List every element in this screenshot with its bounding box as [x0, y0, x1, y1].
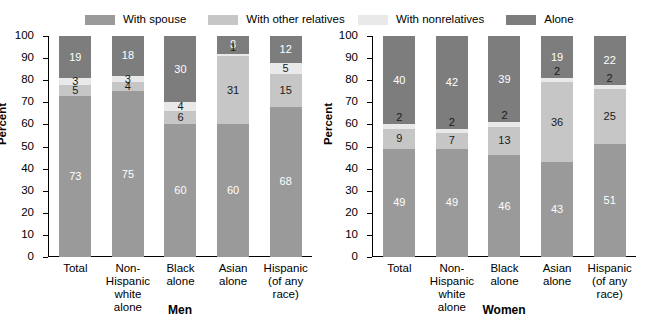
y-tick-label-80: 80 — [21, 74, 34, 86]
segment-with-other-relatives: 31 — [217, 56, 249, 125]
x-category-line: Hispanic — [586, 262, 634, 275]
y-tick-70: 70 — [43, 102, 48, 103]
segment-value: 36 — [551, 117, 563, 128]
y-axis-label-men: Percent — [0, 103, 8, 145]
segment-with-other-relatives: 25 — [594, 89, 626, 144]
bar-men-non-hispanic-white-alone[interactable]: 18 3 4 75 — [112, 36, 144, 257]
segment-with-other-relatives: 13 — [488, 127, 520, 156]
legend-item-with-spouse: With spouse — [85, 14, 186, 26]
segment-with-other-relatives: 9 — [383, 129, 415, 149]
bar-men-hispanic-of-any-race[interactable]: 12 5 15 68 — [270, 36, 302, 257]
y-tick-label-90: 90 — [21, 52, 34, 64]
plot-area-men: 100 90 80 70 60 50 40 30 20 10 0 19 3 5 … — [48, 36, 312, 257]
segment-value: 4 — [125, 81, 131, 92]
bar-women-non-hispanic-white-alone[interactable]: 42 2 7 49 — [436, 36, 468, 257]
x-category-line: (of any race) — [262, 275, 310, 301]
legend-swatch-alone — [506, 15, 536, 25]
segment-with-other-relatives: 4 — [112, 82, 144, 91]
segment-with-other-relatives: 7 — [436, 133, 468, 148]
y-tick-label-60: 60 — [345, 119, 358, 131]
bar-men-total[interactable]: 19 3 5 73 — [59, 36, 91, 257]
segment-value: 6 — [177, 112, 183, 123]
y-tick-label-30: 30 — [21, 185, 34, 197]
bar-women-total[interactable]: 40 2 9 49 — [383, 36, 415, 257]
segment-value: 19 — [551, 52, 563, 63]
segment-value: 46 — [498, 201, 510, 212]
segment-with-spouse: 46 — [488, 155, 520, 257]
y-tick-20: 20 — [367, 213, 372, 214]
y-tick-label-20: 20 — [345, 207, 358, 219]
x-category-line: Black — [480, 262, 528, 275]
y-tick-50: 50 — [367, 147, 372, 148]
segment-alone: 18 — [112, 36, 144, 76]
y-tick-0: 0 — [43, 257, 48, 258]
segment-value: 2 — [396, 112, 402, 123]
segment-value: 60 — [227, 185, 239, 196]
y-tick-10: 10 — [43, 235, 48, 236]
segment-value: 40 — [393, 75, 405, 86]
x-category-line: alone — [480, 275, 528, 288]
y-tick-label-100: 100 — [15, 30, 34, 42]
segment-value: 7 — [449, 135, 455, 146]
y-tick-label-90: 90 — [345, 52, 358, 64]
segment-value: 22 — [604, 55, 616, 66]
y-tick-80: 80 — [367, 80, 372, 81]
segment-value: 2 — [554, 66, 560, 77]
bar-women-asian-alone[interactable]: 19 2 36 43 — [541, 36, 573, 257]
segment-with-spouse: 60 — [217, 124, 249, 257]
segment-with-other-relatives: 15 — [270, 74, 302, 107]
x-category-line: alone — [156, 275, 204, 288]
bar-men-black-alone[interactable]: 30 4 6 60 — [164, 36, 196, 257]
x-category-line: Total — [375, 262, 423, 275]
segment-value: 5 — [72, 85, 78, 96]
legend-item-with-other-relatives: With other relatives — [208, 14, 344, 26]
legend-swatch-with-nonrelatives — [358, 15, 388, 25]
segment-with-spouse: 49 — [436, 149, 468, 257]
y-tick-40: 40 — [367, 169, 372, 170]
panel-title-men: Men — [48, 303, 312, 317]
segment-value: 75 — [122, 169, 134, 180]
y-tick-90: 90 — [367, 58, 372, 59]
bar-women-hispanic-of-any-race[interactable]: 22 2 25 51 — [594, 36, 626, 257]
bar-men-asian-alone[interactable]: 8 1 31 60 — [217, 36, 249, 257]
x-category-line: Asian — [533, 262, 581, 275]
segment-with-spouse: 60 — [164, 124, 196, 257]
legend-men: With spouse With other relatives — [85, 12, 367, 28]
y-tick-label-30: 30 — [345, 185, 358, 197]
x-category-line: alone — [209, 275, 257, 288]
panel-title-women: Women — [372, 303, 636, 317]
stacked-bar-chart-figure: With spouse With other relatives Percent… — [0, 0, 653, 329]
segment-alone: 19 — [59, 36, 91, 78]
segment-value: 15 — [280, 85, 292, 96]
x-category-line: Hispanic — [262, 262, 310, 275]
segment-value: 1 — [230, 42, 236, 53]
segment-value: 42 — [446, 77, 458, 88]
segment-value: 18 — [122, 50, 134, 61]
y-tick-80: 80 — [43, 80, 48, 81]
y-tick-30: 30 — [43, 191, 48, 192]
segment-with-spouse: 43 — [541, 162, 573, 257]
segment-value: 31 — [227, 85, 239, 96]
segment-value: 49 — [446, 197, 458, 208]
y-tick-60: 60 — [43, 124, 48, 125]
segment-alone: 12 — [270, 36, 302, 63]
segment-value: 60 — [174, 185, 186, 196]
segment-value: 13 — [498, 135, 510, 146]
segment-with-spouse: 68 — [270, 107, 302, 257]
plot-area-women: 100 90 80 70 60 50 40 30 20 10 0 40 2 9 … — [372, 36, 636, 257]
y-tick-30: 30 — [367, 191, 372, 192]
y-tick-label-20: 20 — [21, 207, 34, 219]
bar-women-black-alone[interactable]: 39 2 13 46 — [488, 36, 520, 257]
segment-value: 30 — [174, 64, 186, 75]
y-tick-60: 60 — [367, 124, 372, 125]
legend-label-with-spouse: With spouse — [123, 14, 186, 26]
segment-value: 39 — [498, 74, 510, 85]
segment-value: 12 — [280, 44, 292, 55]
segment-with-spouse: 49 — [383, 149, 415, 257]
legend-item-with-nonrelatives: With nonrelatives — [358, 14, 484, 26]
segment-value: 19 — [69, 52, 81, 63]
x-category-line: Asian — [209, 262, 257, 275]
panel-women: With nonrelatives Alone Percent 100 90 8… — [330, 0, 653, 329]
y-tick-label-10: 10 — [21, 229, 34, 241]
segment-value: 51 — [604, 195, 616, 206]
